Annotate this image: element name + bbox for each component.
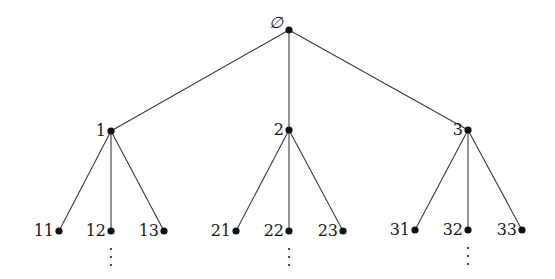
vertical-ellipsis-icon (110, 248, 112, 266)
node-31-label: 31 (390, 220, 410, 239)
edge-root-n3 (289, 30, 468, 130)
node-31-dot (411, 226, 418, 233)
edge-n2-n23 (289, 130, 343, 231)
edge-n3-n33 (468, 130, 522, 230)
node-21-label: 21 (211, 221, 231, 240)
node-1-label: 1 (96, 121, 106, 140)
edge-n1-n11 (59, 131, 111, 231)
tree-diagram: ∅123111213212223313233 (0, 0, 555, 279)
node-33-label: 33 (497, 220, 517, 239)
node-32-dot (464, 226, 471, 233)
node-3-dot (464, 126, 471, 133)
node-2-label: 2 (274, 120, 284, 139)
continuation-ellipses (110, 247, 469, 266)
root-node-label: ∅ (269, 13, 284, 32)
edge-root-n1 (111, 30, 289, 131)
node-11-dot (55, 227, 62, 234)
node-21-dot (232, 227, 239, 234)
node-13-label: 13 (139, 221, 159, 240)
vertical-ellipsis-icon (288, 248, 290, 266)
node-2-dot (285, 126, 292, 133)
node-22-label: 22 (264, 221, 284, 240)
node-12-label: 12 (86, 221, 106, 240)
root-node-dot (285, 26, 292, 33)
node-11-label: 11 (34, 221, 54, 240)
node-33-dot (518, 226, 525, 233)
node-13-dot (160, 227, 167, 234)
edge-n1-n13 (111, 131, 164, 231)
edge-n2-n21 (236, 130, 289, 231)
edge-n3-n31 (415, 130, 468, 230)
node-3-label: 3 (453, 120, 463, 139)
node-32-label: 32 (443, 220, 463, 239)
node-23-label: 23 (318, 221, 338, 240)
node-22-dot (285, 227, 292, 234)
vertical-ellipsis-icon (467, 247, 469, 265)
node-1-dot (107, 127, 114, 134)
tree-labels: ∅123111213212223313233 (34, 13, 517, 240)
node-12-dot (107, 227, 114, 234)
node-23-dot (339, 227, 346, 234)
